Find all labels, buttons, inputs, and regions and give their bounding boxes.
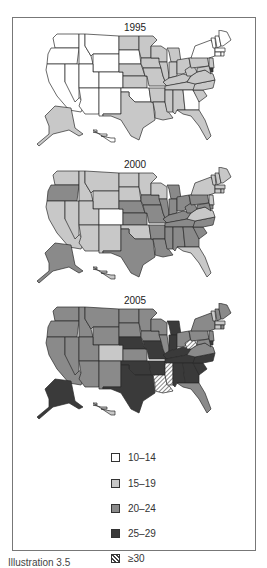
state-ma [215, 48, 225, 52]
state-ct [215, 189, 221, 193]
state-ak [37, 243, 83, 283]
state-or [47, 321, 79, 337]
state-in [169, 199, 177, 215]
us-map-2000 [35, 167, 240, 292]
legend-label: ≥30 [128, 553, 145, 564]
state-co [99, 345, 123, 361]
state-ny [191, 177, 215, 195]
state-az [79, 361, 99, 387]
state-wa [53, 307, 79, 321]
state-mt [85, 171, 119, 193]
map-panel-2005: 2005 [13, 291, 257, 431]
state-ri [221, 325, 224, 329]
state-sd [119, 323, 141, 337]
legend-label: 25–29 [128, 528, 156, 539]
state-ks [123, 349, 147, 361]
state-ar [149, 88, 165, 102]
state-ak [37, 106, 83, 146]
state-co [99, 72, 123, 88]
legend-swatch [111, 504, 120, 513]
state-ri [221, 189, 224, 193]
state-ms [165, 227, 173, 249]
state-ny [191, 40, 215, 58]
state-ne [119, 64, 145, 76]
legend-item-15-19: 15–19 [111, 476, 156, 490]
state-nj [209, 58, 214, 68]
state-fl [177, 383, 211, 413]
state-ct [215, 52, 221, 56]
legend-swatch [111, 529, 120, 538]
legend-label: 10–14 [128, 452, 156, 463]
state-ks [123, 213, 147, 225]
figure-caption: Illustration 3.5 [8, 557, 70, 568]
us-map-1995 [35, 30, 240, 155]
state-fl [177, 110, 211, 140]
state-ma [215, 185, 225, 189]
map-panel-2000: 2000 [13, 155, 257, 295]
state-me [219, 167, 231, 183]
state-sd [119, 187, 141, 201]
legend-swatch-hatched [111, 554, 120, 563]
state-wy [93, 191, 119, 209]
us-map-2005 [35, 303, 240, 428]
state-az [79, 225, 99, 251]
state-co [99, 209, 123, 225]
state-nj [209, 195, 214, 205]
state-wa [53, 171, 79, 185]
state-hi [93, 403, 115, 415]
state-nj [209, 331, 214, 341]
state-me [219, 303, 231, 319]
state-fl [177, 247, 211, 277]
legend-item-10-14: 10–14 [111, 450, 156, 464]
state-nm [99, 88, 121, 116]
map-panel-1995: 1995 [13, 18, 257, 158]
state-wy [93, 54, 119, 72]
state-ar [149, 361, 165, 375]
state-nm [99, 361, 121, 389]
state-or [47, 185, 79, 201]
state-ri [221, 52, 224, 56]
legend-item-25-29: 25–29 [111, 526, 156, 540]
state-ne [119, 201, 145, 213]
state-nd [119, 36, 139, 50]
state-ms [165, 363, 173, 385]
state-ms [165, 90, 173, 112]
legend-swatch [111, 479, 120, 488]
state-sd [119, 50, 141, 64]
state-ia [141, 195, 161, 205]
state-mt [85, 34, 119, 56]
figure-frame: 1995 2000 2005 10–14 15–19 20–24 25–29 ≥… [12, 17, 256, 551]
state-ks [123, 76, 147, 88]
legend-item-20-24: 20–24 [111, 501, 156, 515]
legend-label: 15–19 [128, 478, 156, 489]
state-ak [37, 379, 83, 419]
state-ia [141, 331, 161, 341]
state-hi [93, 130, 115, 142]
state-ct [215, 325, 221, 329]
state-az [79, 88, 99, 114]
state-ny [191, 313, 215, 331]
state-ma [215, 321, 225, 325]
legend-item-30-plus: ≥30 [111, 551, 145, 565]
state-me [219, 30, 231, 46]
state-ar [149, 225, 165, 239]
state-nm [99, 225, 121, 253]
state-ne [119, 337, 145, 349]
state-or [47, 48, 79, 64]
state-wa [53, 34, 79, 48]
state-in [169, 335, 177, 351]
legend-swatch [111, 453, 120, 462]
state-mt [85, 307, 119, 329]
state-nd [119, 173, 139, 187]
state-ia [141, 58, 161, 68]
state-in [169, 62, 177, 78]
state-wy [93, 327, 119, 345]
state-hi [93, 267, 115, 279]
state-nd [119, 309, 139, 323]
legend-label: 20–24 [128, 503, 156, 514]
